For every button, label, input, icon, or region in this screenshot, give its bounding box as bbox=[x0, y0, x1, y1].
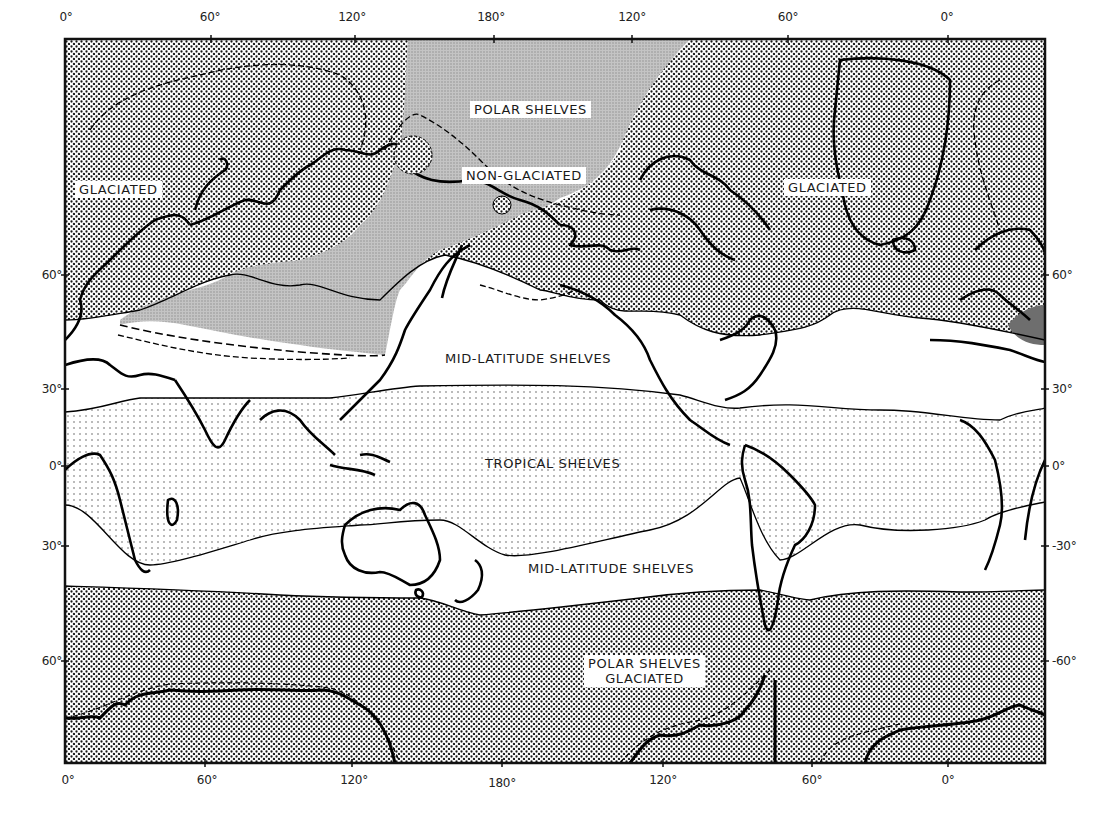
right-axis-label-60s: -60° bbox=[1052, 654, 1076, 668]
top-axis-label-0w: 0° bbox=[940, 10, 953, 24]
small-island-patch bbox=[493, 196, 511, 214]
left-axis-label-30s: 30° bbox=[38, 539, 62, 553]
top-axis-label-60: 60° bbox=[200, 10, 220, 24]
top-axis-label-60w: 60° bbox=[778, 10, 798, 24]
label-tropical: TROPICAL SHELVES bbox=[481, 455, 624, 472]
right-axis-label-30n: 30° bbox=[1052, 382, 1072, 396]
label-glaciated-east: GLACIATED bbox=[784, 179, 871, 196]
label-polar-shelves-north: POLAR SHELVES bbox=[470, 101, 591, 118]
bottom-axis-label-180: 180° bbox=[488, 776, 516, 790]
right-axis-label-60n: 60° bbox=[1052, 268, 1072, 282]
wrangel-island-patch bbox=[394, 136, 432, 174]
glaciated-zone-south bbox=[65, 586, 1045, 763]
label-mid-latitude-north: MID-LATITUDE SHELVES bbox=[441, 350, 615, 367]
bottom-axis-label-120w: 120° bbox=[649, 773, 677, 787]
top-axis-label-0: 0° bbox=[59, 10, 72, 24]
top-axis-label-180: 180° bbox=[477, 10, 505, 24]
left-axis-label-0: 0° bbox=[38, 459, 62, 473]
bottom-axis-label-60w: 60° bbox=[802, 773, 822, 787]
left-axis-label-60s: 60° bbox=[38, 654, 62, 668]
top-axis-label-120: 120° bbox=[338, 10, 366, 24]
label-polar-shelves-south: POLAR SHELVES GLACIATED bbox=[584, 655, 705, 687]
label-non-glaciated: NON-GLACIATED bbox=[462, 167, 586, 184]
label-polar-shelves-south-line1: POLAR SHELVES bbox=[588, 656, 701, 671]
left-axis-label-30n: 30° bbox=[38, 382, 62, 396]
right-axis-label-0: 0° bbox=[1052, 459, 1065, 473]
bottom-axis-label-60: 60° bbox=[197, 773, 217, 787]
label-mid-latitude-south: MID-LATITUDE SHELVES bbox=[524, 560, 698, 577]
bottom-axis-label-120: 120° bbox=[340, 773, 368, 787]
label-polar-shelves-south-line2: GLACIATED bbox=[588, 671, 701, 686]
top-axis-label-120w: 120° bbox=[618, 10, 646, 24]
left-axis-label-60n: 60° bbox=[38, 268, 62, 282]
label-glaciated-west: GLACIATED bbox=[75, 181, 162, 198]
bottom-axis-label-0w: 0° bbox=[941, 773, 954, 787]
right-axis-label-30s: -30° bbox=[1052, 539, 1076, 553]
bottom-axis-label-0: 0° bbox=[61, 773, 74, 787]
world-shelf-map bbox=[0, 0, 1115, 820]
